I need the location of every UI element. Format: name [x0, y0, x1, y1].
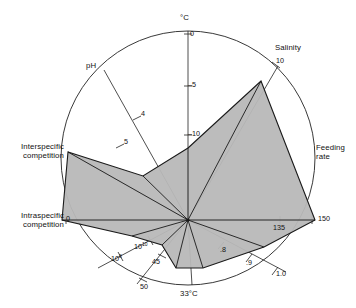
tick-label-temp-minus5: –5 [188, 81, 196, 89]
tick-label-density-1e10: 1010 [134, 240, 148, 251]
axis-label-interspecific-line2: competition [2, 152, 64, 161]
radar-chart: °C 0 –5 –10 Salinity 10 Feeding rate 135… [0, 0, 356, 308]
tick-label-sal-45: 45 [152, 258, 160, 266]
tick-label-density-1e8-exp: 8 [119, 253, 122, 259]
tick-label-ph-4: 4 [141, 110, 145, 118]
tick-label-density-1e8: 108 [111, 252, 122, 263]
axis-label-feeding-rate-line2: rate [316, 153, 330, 162]
axis-label-intraspecific-line2: competition [6, 221, 64, 230]
tick-label-density-1e8-base: 10 [111, 254, 119, 263]
tick-ph-5 [116, 144, 124, 148]
tick-label-fr-150: 150 [318, 215, 330, 223]
data-polygon-group [62, 81, 315, 268]
tick-label-ae-10: 1.0 [276, 270, 286, 278]
origin-dot [186, 218, 189, 221]
tick-label-density-1e10-exp: 10 [142, 241, 148, 247]
tick-label-temp-0: 0 [190, 30, 194, 38]
tick-label-density-1e10-base: 10 [134, 242, 142, 251]
tick-label-temp-minus10: –10 [188, 130, 200, 138]
tick-label-intra-0: 0 [66, 215, 70, 223]
data-polygon [62, 81, 315, 268]
tick-label-ph-5: 5 [124, 138, 128, 146]
tick-ph-4 [133, 116, 141, 120]
tick-label-ae-8: .8 [220, 246, 226, 254]
tick-label-salinity-10: 10 [276, 57, 284, 65]
axis-label-temperature-high: 33°C [180, 290, 198, 299]
tick-label-ae-9: .9 [246, 259, 252, 267]
axis-label-ph: pH [86, 62, 96, 71]
tick-label-sal-50: 50 [140, 283, 148, 291]
tick-label-fr-135: 135 [273, 224, 285, 232]
axis-label-temperature-low: °C [180, 14, 189, 23]
axis-label-salinity: Salinity [275, 44, 301, 53]
